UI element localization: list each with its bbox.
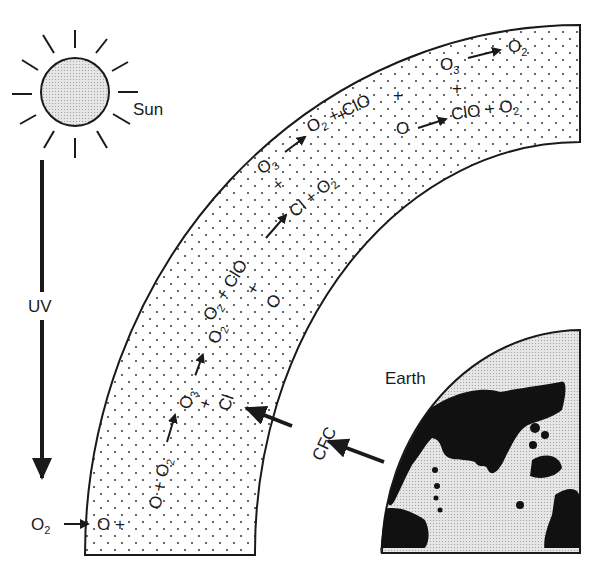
earth-icon — [380, 330, 580, 553]
ozone-diagram: Sun UV O2 O + O + O2 O3 O2 + Cl CFC O2 +… — [0, 0, 601, 568]
plus-f: + — [452, 79, 462, 98]
sun-icon — [12, 30, 138, 158]
sun-label: Sun — [133, 100, 163, 119]
reaction-o-b: O — [396, 119, 409, 138]
chain-o-plus: O + — [97, 515, 125, 534]
cfc-arrow-2 — [328, 441, 384, 462]
plus-e: + — [393, 86, 403, 105]
o2-input-label: O2 — [31, 515, 50, 536]
earth-label: Earth — [385, 369, 426, 388]
uv-label: UV — [28, 297, 52, 316]
